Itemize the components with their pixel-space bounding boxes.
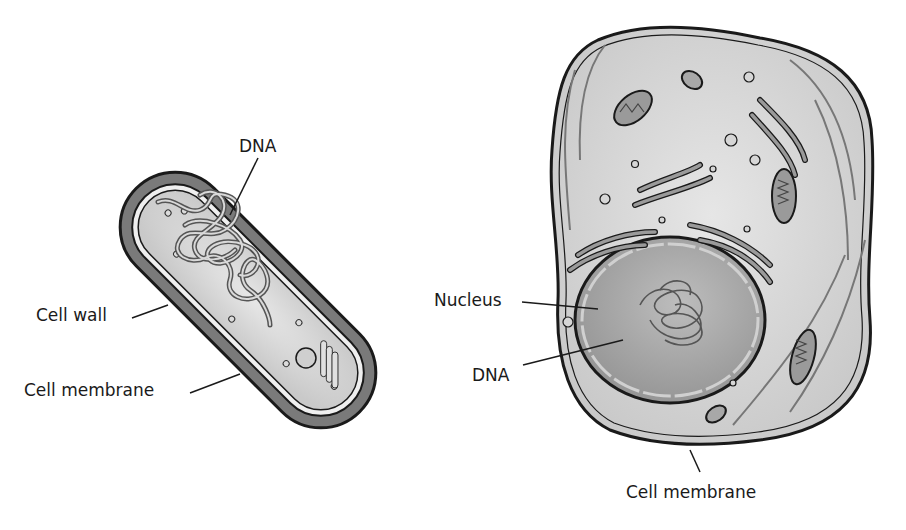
label-eukaryote-dna: DNA — [472, 367, 509, 384]
cell-diagram: DNA Cell wall Cell membrane Nucleus DNA … — [0, 0, 906, 530]
leader-dna-left — [230, 158, 258, 215]
leader-cell-membrane-right — [690, 450, 700, 472]
prokaryotic-cell — [97, 149, 398, 450]
label-nucleus: Nucleus — [434, 292, 502, 309]
leader-cell-wall — [132, 305, 168, 318]
label-prokaryote-cell-membrane: Cell membrane — [24, 382, 154, 399]
label-prokaryote-dna: DNA — [239, 138, 276, 155]
leader-cell-membrane — [190, 374, 240, 393]
label-cell-wall: Cell wall — [36, 307, 107, 324]
label-eukaryote-cell-membrane: Cell membrane — [626, 484, 756, 501]
nucleus — [575, 237, 765, 403]
eukaryotic-cell — [522, 27, 873, 472]
